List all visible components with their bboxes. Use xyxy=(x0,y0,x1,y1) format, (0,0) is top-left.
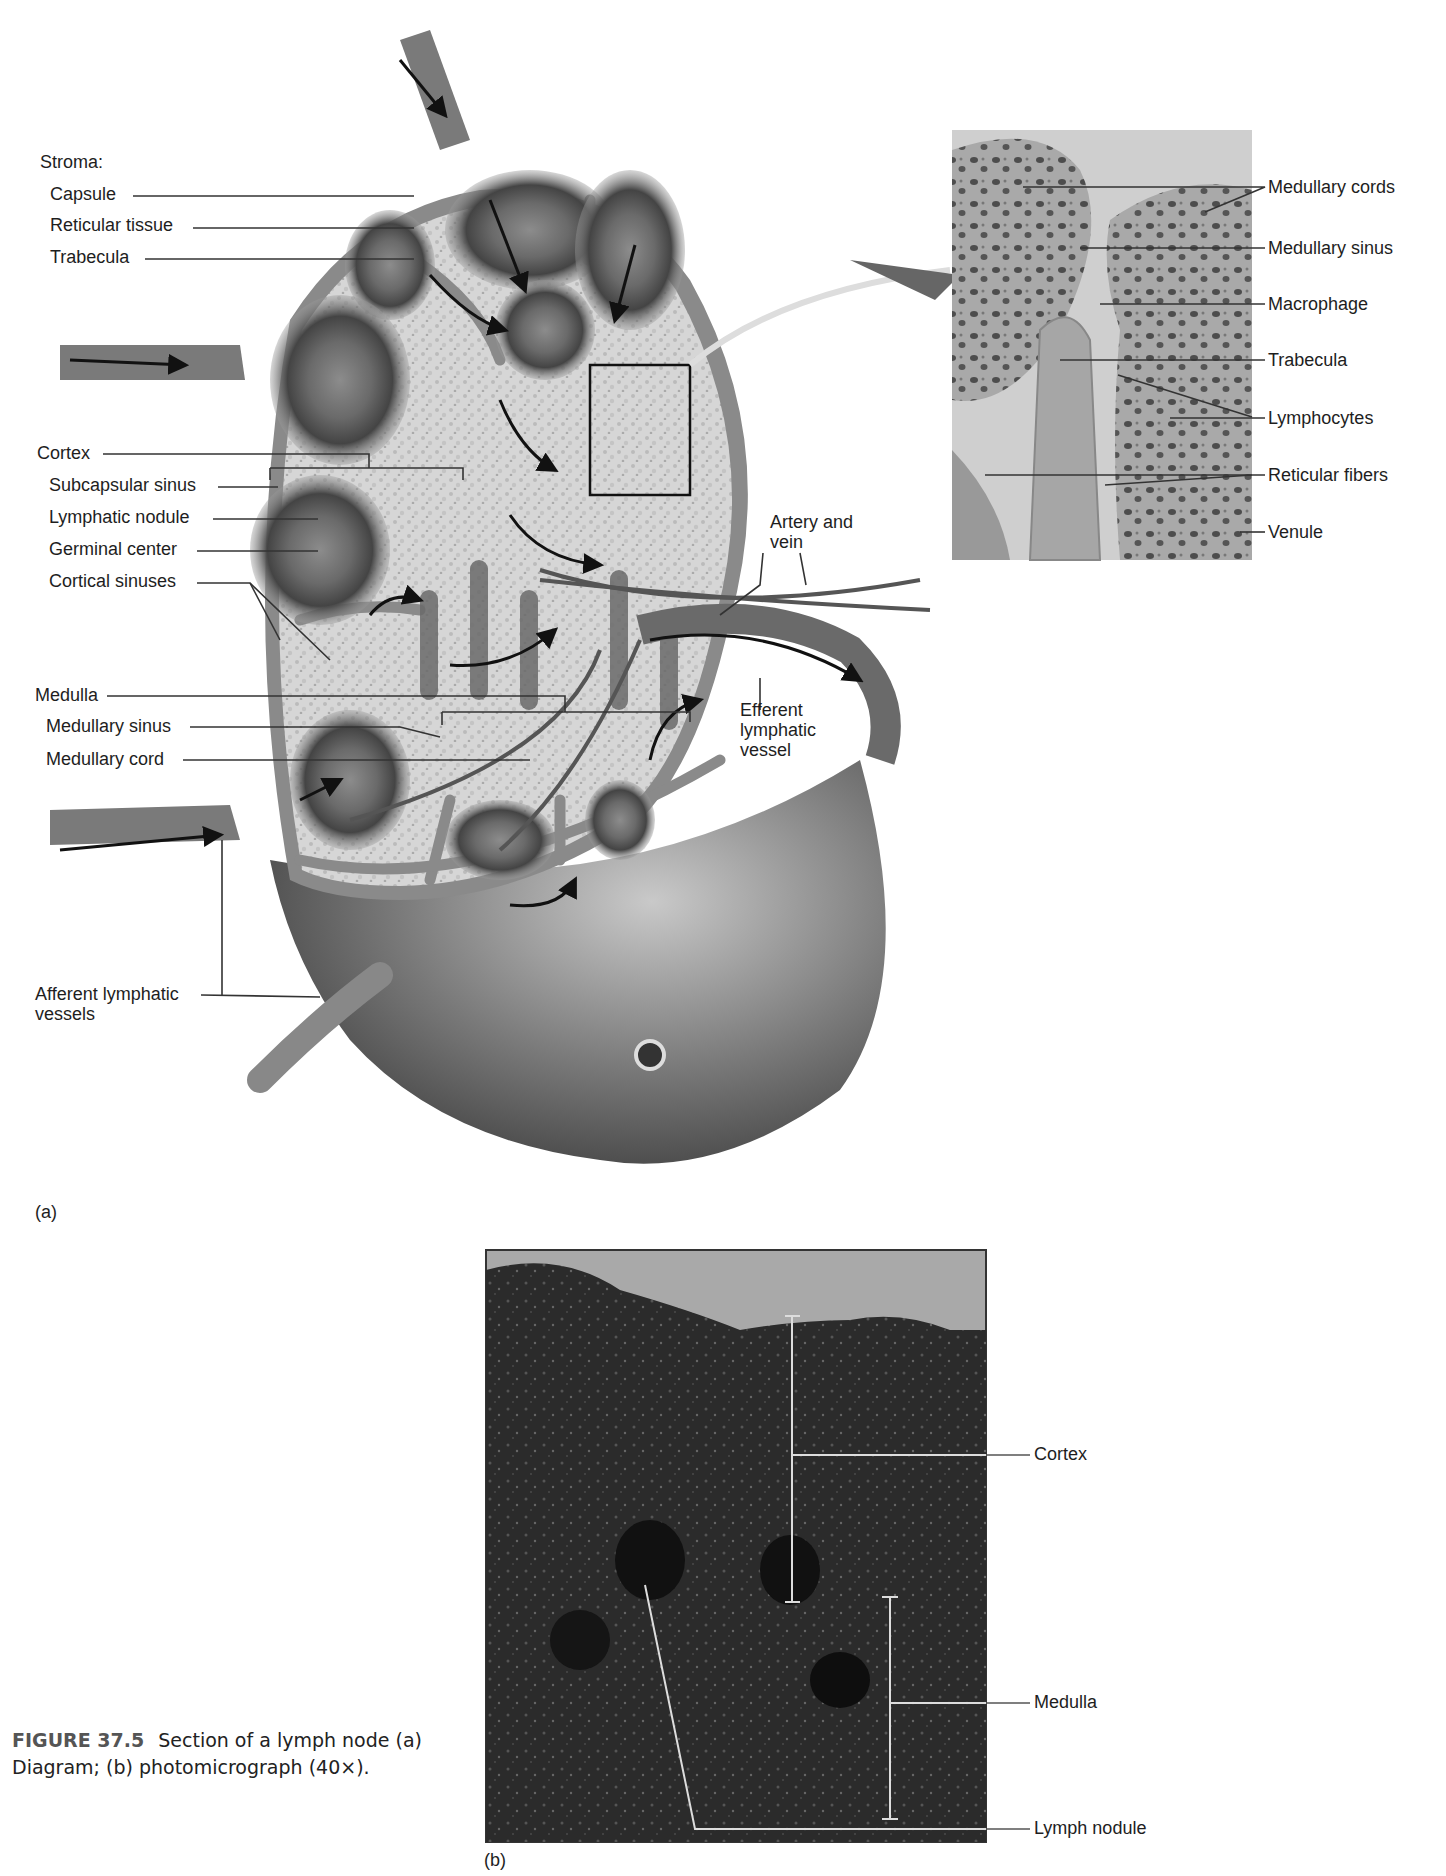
photomicrograph xyxy=(486,1250,986,1842)
micrograph-label-cortex: Cortex xyxy=(1034,1444,1087,1464)
label-afferent-lymphatic-vessels: Afferent lymphatic vessels xyxy=(35,984,205,1024)
micrograph-label-lymph-nodule: Lymph nodule xyxy=(1034,1818,1146,1838)
label-capsule: Capsule xyxy=(50,184,116,204)
label-germinal-center: Germinal center xyxy=(49,539,177,559)
inset-pointer-arrow xyxy=(850,260,960,300)
medulla-heading: Medulla xyxy=(35,685,98,705)
label-subcapsular-sinus: Subcapsular sinus xyxy=(49,475,196,495)
inset-label-lymphocytes: Lymphocytes xyxy=(1268,408,1373,428)
lymph-node-figure xyxy=(0,0,1446,1876)
label-medullary-cord: Medullary cord xyxy=(46,749,164,769)
efferent-vessel-opening xyxy=(636,1041,664,1069)
label-artery-and-vein: Artery and vein xyxy=(770,512,860,552)
cortex-heading: Cortex xyxy=(37,443,90,463)
micrograph-label-medulla: Medulla xyxy=(1034,1692,1097,1712)
label-cortical-sinuses: Cortical sinuses xyxy=(49,571,176,591)
stroma-heading: Stroma: xyxy=(40,152,103,172)
panel-b-tag: (b) xyxy=(484,1850,506,1871)
inset-label-macrophage: Macrophage xyxy=(1268,294,1368,314)
figure-number: FIGURE 37.5 xyxy=(12,1729,144,1751)
inset-label-venule: Venule xyxy=(1268,522,1323,542)
medulla-inset xyxy=(952,130,1252,560)
label-efferent-lymphatic-vessel: Efferent lymphatic vessel xyxy=(740,700,835,760)
label-reticular-tissue: Reticular tissue xyxy=(50,215,173,235)
inset-label-medullary-cords: Medullary cords xyxy=(1268,177,1395,197)
figure-title: Section of a lymph node xyxy=(158,1729,389,1751)
label-lymphatic-nodule: Lymphatic nodule xyxy=(49,507,189,527)
micrograph-leader-extensions xyxy=(986,1455,1030,1829)
inset-label-trabecula: Trabecula xyxy=(1268,350,1347,370)
figure-caption: FIGURE 37.5 Section of a lymph node (a) … xyxy=(12,1727,452,1781)
label-medullary-sinus: Medullary sinus xyxy=(46,716,171,736)
label-trabecula: Trabecula xyxy=(50,247,129,267)
inset-label-reticular-fibers: Reticular fibers xyxy=(1268,465,1388,485)
panel-a-tag: (a) xyxy=(35,1202,57,1223)
inset-label-medullary-sinus: Medullary sinus xyxy=(1268,238,1393,258)
